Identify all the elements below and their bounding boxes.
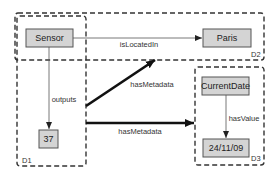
- node-currentdate-label: CurrentDate: [201, 81, 250, 91]
- edge-has-metadata-d3: hasMetadata: [86, 123, 194, 136]
- edge-has-metadata-d3-label: hasMetadata: [118, 127, 162, 136]
- node-37: 37: [39, 130, 58, 148]
- node-37-label: 37: [43, 134, 53, 144]
- group-d3-label: D3: [251, 154, 261, 163]
- edge-is-located-in: isLocatedIn: [73, 38, 202, 49]
- node-paris: Paris: [203, 29, 251, 47]
- rdf-graph-diagram: D2 D1 D3 isLocatedIn outputs hasMetadata…: [0, 0, 278, 179]
- group-d2-label: D2: [251, 50, 261, 59]
- node-sensor-label: Sensor: [35, 33, 64, 43]
- edge-has-metadata-d2-label: hasMetadata: [130, 80, 174, 89]
- node-paris-label: Paris: [217, 33, 238, 43]
- edge-has-value: hasValue: [226, 95, 259, 138]
- edge-has-metadata-d2: hasMetadata: [86, 60, 175, 106]
- node-date: 24/11/09: [203, 139, 249, 157]
- edge-has-value-label: hasValue: [229, 114, 260, 123]
- node-date-label: 24/11/09: [209, 143, 243, 153]
- edge-outputs-label: outputs: [52, 95, 77, 104]
- node-currentdate: CurrentDate: [201, 77, 250, 95]
- node-sensor: Sensor: [26, 29, 73, 47]
- group-d1-label: D1: [22, 156, 32, 165]
- edge-is-located-in-label: isLocatedIn: [120, 40, 158, 49]
